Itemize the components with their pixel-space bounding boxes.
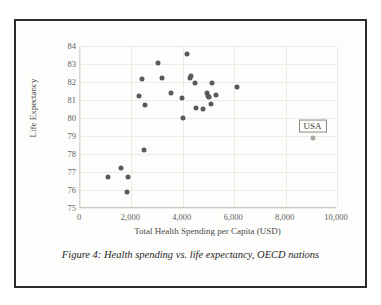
gridline-vertical [234, 46, 235, 207]
scatter-point [209, 80, 214, 85]
scatter-point [181, 116, 186, 121]
y-tick-label: 78 [68, 149, 77, 159]
scatter-point [193, 80, 198, 85]
y-tick-label: 77 [68, 167, 77, 177]
gridline-vertical [131, 46, 132, 207]
gridline-horizontal [80, 64, 336, 65]
y-tick-label: 75 [68, 203, 77, 213]
gridline-vertical [286, 46, 287, 207]
annotation-label-usa: USA [299, 119, 327, 132]
gridline-vertical [183, 46, 184, 207]
scatter-point [200, 107, 205, 112]
x-tick-label: 10,000 [324, 212, 347, 222]
scatter-point [140, 77, 145, 82]
gridline-horizontal [80, 190, 336, 191]
gridline-vertical [80, 46, 81, 207]
gridline-horizontal [80, 136, 336, 137]
scatter-point [185, 52, 190, 57]
y-tick-label: 79 [68, 131, 77, 141]
scatter-point [137, 93, 142, 98]
x-axis-ticks: 02,0004,0006,0008,00010,000 [79, 212, 336, 226]
gridline-horizontal [80, 172, 336, 173]
y-axis-ticks: 75767778798081828384 [56, 46, 76, 208]
gridline-horizontal [80, 154, 336, 155]
y-tick-label: 82 [68, 77, 77, 87]
figure-caption: Figure 4: Health spending vs. life expec… [24, 249, 357, 260]
x-tick-label: 8,000 [275, 212, 294, 222]
scatter-point [156, 61, 161, 66]
scatter-point [179, 96, 184, 101]
x-tick-label: 4,000 [172, 212, 191, 222]
gridline-horizontal [80, 208, 336, 209]
scatter-point [126, 175, 131, 180]
gridline-vertical [337, 46, 338, 207]
x-tick-label: 2,000 [121, 212, 140, 222]
scatter-point [169, 90, 174, 95]
scatter-point [189, 73, 194, 78]
scatter-point [207, 95, 212, 100]
plot-area: USA [79, 46, 336, 208]
y-tick-label: 81 [68, 95, 77, 105]
y-tick-label: 84 [68, 41, 77, 51]
y-tick-label: 83 [68, 59, 77, 69]
scatter-chart: USA 75767778798081828384 02,0004,0006,00… [16, 21, 365, 246]
scatter-point [208, 101, 213, 106]
scatter-point [124, 189, 129, 194]
y-tick-label: 76 [68, 185, 77, 195]
x-axis-title: Total Health Spending per Capita (USD) [79, 226, 336, 236]
x-tick-label: 0 [77, 212, 81, 222]
y-tick-label: 80 [68, 113, 77, 123]
scatter-point [160, 75, 165, 80]
scatter-point [119, 166, 124, 171]
gridline-horizontal [80, 46, 336, 47]
gridline-horizontal [80, 82, 336, 83]
y-axis-title: Life Expectancy [28, 58, 38, 158]
figure-frame: USA 75767778798081828384 02,0004,0006,00… [14, 19, 367, 288]
x-tick-label: 6,000 [224, 212, 243, 222]
scatter-point [106, 175, 111, 180]
scatter-point [213, 92, 218, 97]
scatter-point [234, 84, 239, 89]
scatter-point [310, 135, 315, 140]
scatter-point [143, 103, 148, 108]
scatter-point [194, 106, 199, 111]
scatter-point [141, 147, 146, 152]
